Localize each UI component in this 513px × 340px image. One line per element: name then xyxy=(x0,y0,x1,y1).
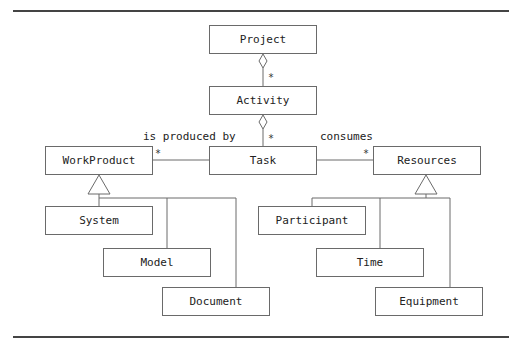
aggregation-diamond-icon xyxy=(259,54,267,68)
generalization-triangle-icon xyxy=(415,175,437,194)
multiplicity-workproduct: * xyxy=(155,148,161,159)
class-project: Project xyxy=(209,25,317,54)
aggregation-diamond-icon xyxy=(259,115,267,129)
multiplicity-task: * xyxy=(268,133,274,144)
multiplicity-resources: * xyxy=(363,148,369,159)
association-label-produced: is produced by xyxy=(143,130,236,143)
uml-diagram: Project Activity Task WorkProduct Resour… xyxy=(0,0,513,340)
generalization-triangle-icon xyxy=(88,175,110,194)
class-activity: Activity xyxy=(209,86,317,115)
association-label-consumes: consumes xyxy=(320,130,373,143)
class-time: Time xyxy=(316,248,424,277)
class-participant: Participant xyxy=(258,206,366,235)
class-system: System xyxy=(45,206,153,235)
class-workproduct: WorkProduct xyxy=(45,146,153,175)
class-model: Model xyxy=(103,248,211,277)
class-task: Task xyxy=(209,146,317,175)
multiplicity-activity: * xyxy=(268,72,274,83)
class-equipment: Equipment xyxy=(375,287,483,316)
class-resources: Resources xyxy=(373,146,481,175)
class-document: Document xyxy=(162,287,270,316)
